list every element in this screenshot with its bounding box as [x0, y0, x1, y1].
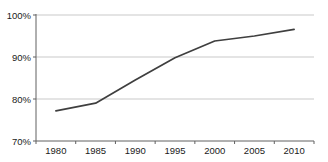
- line-chart: 70%80%90%100%198019851990199520002005201…: [0, 0, 328, 162]
- x-tick-label: 1985: [85, 145, 106, 156]
- line-chart-canvas: 70%80%90%100%198019851990199520002005201…: [0, 0, 328, 162]
- x-tick-label: 2005: [244, 145, 265, 156]
- y-tick-label: 100%: [7, 10, 32, 21]
- y-tick-label: 90%: [12, 52, 32, 63]
- x-tick-label: 1995: [164, 145, 185, 156]
- y-tick-label: 80%: [12, 94, 32, 105]
- x-tick-label: 1990: [125, 145, 146, 156]
- x-tick-label: 2000: [204, 145, 225, 156]
- x-tick-label: 1980: [45, 145, 66, 156]
- y-tick-label: 70%: [12, 136, 32, 147]
- x-tick-label: 2010: [284, 145, 305, 156]
